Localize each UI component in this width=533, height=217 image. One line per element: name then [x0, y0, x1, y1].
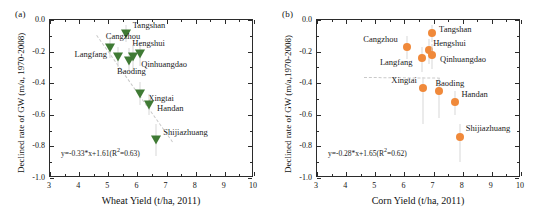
x-tick: [463, 172, 464, 176]
x-tick-minor: [448, 20, 449, 22]
x-tick-minor: [152, 174, 153, 176]
y-tick: [248, 52, 252, 53]
y-tick: [50, 146, 54, 147]
y-tick: [317, 83, 321, 84]
x-tick: [254, 172, 255, 176]
y-tick: [515, 115, 519, 116]
x-tick-minor: [361, 20, 362, 22]
y-tick: [515, 146, 519, 147]
data-point-marker[interactable]: [128, 53, 138, 62]
y-tick-minor: [517, 131, 519, 132]
x-tick-label: 7: [164, 181, 168, 190]
y-tick-minor: [317, 99, 319, 100]
y-tick-minor: [50, 67, 52, 68]
data-point-label: Xingtai: [391, 75, 417, 85]
y-tick: [248, 178, 252, 179]
x-tick: [79, 172, 80, 176]
x-tick: [108, 172, 109, 176]
y-tick: [515, 178, 519, 179]
x-tick-minor: [506, 174, 507, 176]
y-tick: [50, 52, 54, 53]
data-point-marker[interactable]: [419, 84, 427, 92]
x-tick-minor: [210, 20, 211, 22]
y-tick-minor: [517, 99, 519, 100]
data-point-label: Tangshan: [133, 20, 165, 30]
x-tick: [196, 172, 197, 176]
data-point-label: Hengshui: [433, 38, 466, 48]
data-point-label: Qinhuangdao: [141, 59, 187, 69]
data-point-marker[interactable]: [135, 89, 145, 98]
data-point-marker[interactable]: [151, 135, 161, 144]
data-point-marker[interactable]: [403, 43, 411, 51]
x-tick: [375, 20, 376, 24]
y-tick-minor: [517, 67, 519, 68]
y-axis-title: Declined rate of GW (m/a, 1970-2008): [16, 33, 26, 173]
x-tick-label: 10: [249, 181, 257, 190]
y-tick: [248, 83, 252, 84]
y-tick-minor: [317, 67, 319, 68]
x-tick-minor: [390, 174, 391, 176]
x-tick-minor: [181, 174, 182, 176]
y-tick-minor: [50, 36, 52, 37]
y-axis-title: Declined rate of GW (m/a,1970-2008): [283, 35, 293, 173]
data-point-marker[interactable]: [428, 29, 436, 37]
y-tick-minor: [50, 162, 52, 163]
x-tick: [254, 20, 255, 24]
data-point-label: Baoding: [117, 66, 146, 76]
equation-suffix: =0.62): [387, 149, 407, 158]
x-tick-minor: [65, 20, 66, 22]
x-tick: [317, 172, 318, 176]
x-tick: [375, 172, 376, 176]
x-tick-label: 3: [314, 181, 318, 190]
y-tick: [317, 52, 321, 53]
error-bar: [459, 124, 460, 162]
x-tick: [521, 172, 522, 176]
panel-b: (b)TangshanCangzhouHengshuiQinhuangdaoLa…: [267, 0, 533, 217]
data-point-marker[interactable]: [113, 53, 123, 62]
x-tick: [404, 172, 405, 176]
data-point-label: Shijiazhuang: [163, 127, 207, 137]
x-tick-minor: [419, 20, 420, 22]
panel-a: (a)TangshanCangzhouLangfangHengshuiQinhu…: [0, 0, 266, 217]
y-tick: [317, 146, 321, 147]
x-tick-minor: [448, 174, 449, 176]
x-tick-minor: [332, 20, 333, 22]
x-tick-label: 8: [460, 181, 464, 190]
x-tick: [137, 172, 138, 176]
y-tick-minor: [250, 131, 252, 132]
x-tick: [108, 20, 109, 24]
x-tick-minor: [210, 174, 211, 176]
y-tick: [317, 178, 321, 179]
equation-suffix: =0.63): [120, 149, 140, 158]
x-tick-label: 10: [516, 181, 524, 190]
data-point-label: Handan: [157, 103, 183, 113]
data-point-marker[interactable]: [418, 54, 426, 62]
x-tick-minor: [65, 174, 66, 176]
y-tick: [50, 115, 54, 116]
data-point-marker[interactable]: [428, 51, 436, 59]
x-tick: [492, 172, 493, 176]
x-tick-minor: [477, 20, 478, 22]
x-tick-minor: [123, 174, 124, 176]
y-tick-label: 0.0: [288, 15, 312, 24]
regression-equation: y=-0.28*x+1.65(R2=0.62): [328, 147, 407, 158]
x-tick-label: 4: [343, 181, 347, 190]
y-tick-minor: [517, 36, 519, 37]
x-tick: [346, 20, 347, 24]
x-tick: [521, 20, 522, 24]
x-tick-minor: [390, 20, 391, 22]
y-tick: [515, 83, 519, 84]
data-point-marker[interactable]: [144, 100, 154, 109]
x-tick-minor: [506, 20, 507, 22]
data-point-label: Langfang: [380, 57, 413, 67]
x-tick-minor: [94, 174, 95, 176]
data-point-marker[interactable]: [451, 98, 459, 106]
data-point-marker[interactable]: [435, 87, 443, 95]
data-point-label: Tangshan: [439, 24, 471, 34]
x-tick: [434, 172, 435, 176]
x-tick-minor: [123, 20, 124, 22]
y-tick-minor: [317, 162, 319, 163]
data-point-marker[interactable]: [456, 133, 464, 141]
x-tick: [79, 20, 80, 24]
y-tick: [515, 52, 519, 53]
